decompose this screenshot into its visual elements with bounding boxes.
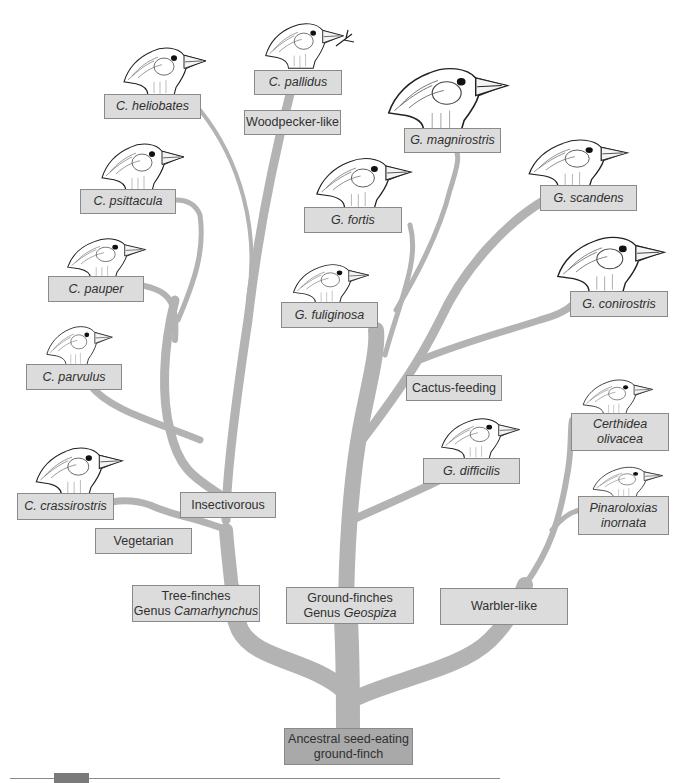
finch-head-icon-g-conirostris [558, 237, 665, 291]
finch-head-icon-pinaroloxias [593, 467, 663, 498]
label-g-magnirostris: G. magnirostris [404, 128, 501, 153]
label-g-difficilis: G. difficilis [423, 458, 520, 484]
finch-head-icon-c-crassirostris [36, 448, 122, 495]
label-certhidea-species: olivacea [597, 432, 643, 447]
finch-head-icon-g-fortis [317, 159, 411, 208]
label-pinaroloxias-genus: Pinaroloxias [589, 501, 657, 516]
label-g-scandens: G. scandens [540, 185, 637, 211]
label-woodpecker-like: Woodpecker-like [244, 110, 341, 135]
label-g-conirostris: G. conirostris [570, 291, 668, 317]
root-line2: ground-finch [314, 747, 384, 762]
label-tree-finches: Tree-finches Genus Camarhynchus [132, 585, 260, 622]
label-certhidea-genus: Certhidea [593, 417, 647, 432]
label-ground-finches: Ground-finches Genus Geospiza [286, 587, 414, 624]
finch-head-icon-c-pallidus [266, 24, 344, 69]
finch-head-icon-c-heliobates [124, 48, 206, 95]
label-c-parvulus: C. parvulus [26, 364, 122, 390]
phylogenetic-tree-branches [0, 0, 682, 783]
label-insectivorous: Insectivorous [180, 492, 276, 518]
label-c-psittacula: C. psittacula [80, 189, 176, 214]
label-g-fuliginosa: G. fuliginosa [281, 302, 378, 328]
label-c-pauper: C. pauper [48, 276, 144, 302]
finch-head-icon-g-magnirostris [389, 69, 508, 131]
label-cactus-feeding: Cactus-feeding [406, 375, 502, 401]
finch-head-icon-certhidea [583, 380, 653, 415]
label-vegetarian: Vegetarian [95, 528, 192, 554]
ground-finches-genus: Genus Geospiza [303, 606, 396, 621]
tree-finches-genus: Genus Camarhynchus [134, 604, 258, 619]
label-c-pallidus: C. pallidus [254, 70, 342, 95]
label-certhidea-olivacea: Certhidea olivacea [571, 413, 669, 451]
finch-head-icon-g-difficilis [442, 419, 520, 459]
footer-marker [54, 773, 89, 783]
label-c-crassirostris: C. crassirostris [17, 493, 114, 520]
twig-tool-icon [336, 30, 354, 46]
ground-finches-line1: Ground-finches [307, 591, 392, 606]
finch-head-icon-g-scandens [529, 140, 627, 187]
finch-head-icon-c-pauper [68, 239, 146, 279]
label-pinaroloxias-inornata: Pinaroloxias inornata [578, 496, 669, 535]
finch-head-icon-g-fuliginosa [294, 265, 369, 304]
label-g-fortis: G. fortis [304, 207, 402, 233]
root-line1: Ancestral seed-eating [288, 732, 409, 747]
label-ancestral-ground-finch: Ancestral seed-eating ground-finch [284, 728, 413, 765]
label-c-heliobates: C. heliobates [104, 94, 201, 119]
finch-head-icon-c-psittacula [102, 144, 184, 191]
finch-head-icon-c-parvulus [47, 327, 113, 366]
tree-finches-line1: Tree-finches [161, 589, 230, 604]
label-pinaroloxias-species: inornata [601, 516, 646, 531]
label-warbler-like: Warbler-like [440, 588, 568, 625]
